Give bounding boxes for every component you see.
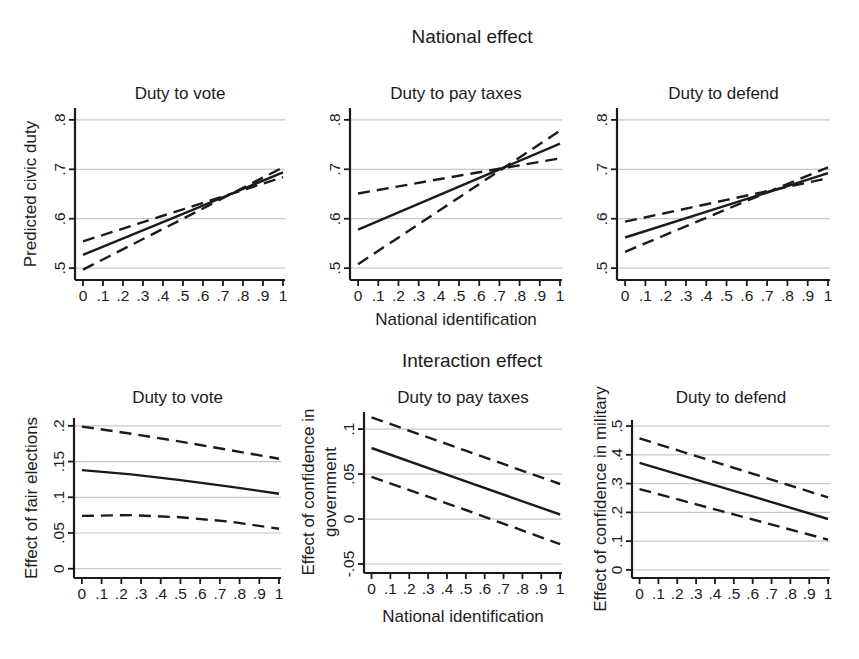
x-tick-label: .3 xyxy=(137,287,150,304)
x-tick-label: .5 xyxy=(727,585,740,602)
x-tick-label: .5 xyxy=(720,287,733,304)
estimate-line xyxy=(83,172,283,255)
y-tick-label: .1 xyxy=(50,491,67,504)
estimate-line xyxy=(358,144,560,230)
x-tick-label: .6 xyxy=(473,287,486,304)
y-tick-label: .7 xyxy=(51,163,68,176)
y-tick-label: .5 xyxy=(608,420,625,433)
x-tick-label: 0 xyxy=(635,585,644,602)
x-tick-label: .7 xyxy=(497,580,510,597)
x-tick-label: .1 xyxy=(652,585,665,602)
estimate-line xyxy=(372,448,561,515)
x-tick-label: 1 xyxy=(279,287,288,304)
x-tick-label: .4 xyxy=(709,585,722,602)
x-tick-label: .3 xyxy=(690,585,703,602)
x-tick-label: .4 xyxy=(432,287,445,304)
x-tick-label: .1 xyxy=(97,287,110,304)
x-tick-label: .3 xyxy=(412,287,425,304)
y-tick-label: .05 xyxy=(340,463,357,485)
x-tick-label: .1 xyxy=(384,580,397,597)
panel-plot-duty-to-pay-taxes-top: .5.6.7.80.1.2.3.4.5.6.7.8.91 xyxy=(316,98,570,316)
x-tick-label: .2 xyxy=(403,580,416,597)
y-tick-label: .8 xyxy=(51,113,68,126)
ci-lower-line xyxy=(82,515,279,529)
x-tick-label: .9 xyxy=(801,287,814,304)
y-tick-label: 0 xyxy=(340,514,357,523)
y-tick-label: .7 xyxy=(593,163,610,176)
x-tick-label: 0 xyxy=(79,287,88,304)
y-tick-label: .1 xyxy=(340,423,357,436)
x-tick-label: .5 xyxy=(177,287,190,304)
row-title-interaction-effect: Interaction effect xyxy=(85,350,859,372)
x-tick-label: .3 xyxy=(422,580,435,597)
y-tick-label: -.05 xyxy=(340,551,357,578)
x-tick-label: .6 xyxy=(740,287,753,304)
y-tick-label: .2 xyxy=(50,419,67,432)
x-tick-label: .7 xyxy=(493,287,506,304)
x-tick-label: .8 xyxy=(516,580,529,597)
x-tick-label: 0 xyxy=(78,585,87,602)
x-tick-label: .8 xyxy=(237,287,250,304)
panel-title-duty-to-defend-bottom: Duty to defend xyxy=(632,388,830,407)
x-tick-label: .1 xyxy=(372,287,385,304)
x-tick-label: .7 xyxy=(217,287,230,304)
x-tick-label: .3 xyxy=(135,585,148,602)
x-tick-label: 0 xyxy=(367,580,376,597)
x-tick-label: 0 xyxy=(621,287,630,304)
x-tick-label: .1 xyxy=(639,287,652,304)
x-tick-label: .4 xyxy=(441,580,454,597)
x-tick-label: .9 xyxy=(803,585,816,602)
x-tick-label: .5 xyxy=(459,580,472,597)
x-tick-label: .2 xyxy=(115,585,128,602)
ci-dashed-b-line xyxy=(358,131,560,265)
y-tick-label: .8 xyxy=(593,113,610,126)
panel-plot-duty-to-defend-bottom: 0.1.2.3.4.50.1.2.3.4.5.6.7.8.91 xyxy=(598,410,838,614)
ci-dashed-a-line xyxy=(625,178,828,222)
x-tick-label: .2 xyxy=(659,287,672,304)
x-tick-label: 1 xyxy=(824,287,833,304)
ci-lower-line xyxy=(640,489,829,540)
x-tick-label: .5 xyxy=(174,585,187,602)
y-tick-label: .4 xyxy=(608,448,625,461)
y-tick-label: .5 xyxy=(326,262,343,275)
y-tick-label: .2 xyxy=(608,506,625,519)
x-tick-label: .8 xyxy=(784,585,797,602)
y-tick-label: .6 xyxy=(326,212,343,225)
x-tick-label: .6 xyxy=(194,585,207,602)
x-tick-label: .2 xyxy=(671,585,684,602)
x-tick-label: .8 xyxy=(233,585,246,602)
x-tick-label: .3 xyxy=(680,287,693,304)
x-tick-label: .6 xyxy=(746,585,759,602)
x-tick-label: .2 xyxy=(392,287,405,304)
x-tick-label: .6 xyxy=(197,287,210,304)
x-tick-label: .7 xyxy=(213,585,226,602)
panel-plot-duty-to-vote-bottom: 0.05.1.15.20.1.2.3.4.5.6.7.8.91 xyxy=(40,408,289,614)
figure: National effect Interaction effect Duty … xyxy=(0,0,859,659)
y-tick-label: .1 xyxy=(608,535,625,548)
x-tick-label: .8 xyxy=(513,287,526,304)
x-tick-label: .7 xyxy=(761,287,774,304)
y-tick-label: .6 xyxy=(593,212,610,225)
y-tick-label: .8 xyxy=(326,113,343,126)
y-tick-label: .3 xyxy=(608,477,625,490)
x-tick-label: .4 xyxy=(700,287,713,304)
x-tick-label: .9 xyxy=(253,585,266,602)
y-tick-label: .5 xyxy=(51,262,68,275)
y-axis-label-predicted-civic-duty: Predicted civic duty xyxy=(20,44,42,344)
y-tick-label: .6 xyxy=(51,212,68,225)
x-tick-label: 1 xyxy=(556,580,565,597)
estimate-line xyxy=(625,173,828,237)
x-tick-label: 1 xyxy=(275,585,284,602)
x-tick-label: 1 xyxy=(556,287,565,304)
x-tick-label: .2 xyxy=(117,287,130,304)
ci-upper-line xyxy=(82,427,279,459)
x-axis-label-national-identification-bottom: National identification xyxy=(364,607,562,627)
y-tick-label: .7 xyxy=(326,163,343,176)
estimate-line xyxy=(82,470,279,494)
x-tick-label: .1 xyxy=(95,585,108,602)
panel-plot-duty-to-defend-top: .5.6.7.80.1.2.3.4.5.6.7.8.91 xyxy=(583,98,838,316)
y-tick-label: .05 xyxy=(50,522,67,544)
ci-dashed-a-line xyxy=(358,158,560,193)
panel-plot-duty-to-pay-taxes-bottom: -.050.05.10.1.2.3.4.5.6.7.8.91 xyxy=(330,402,570,609)
panel-plot-duty-to-vote-top: .5.6.7.80.1.2.3.4.5.6.7.8.91 xyxy=(41,98,293,316)
